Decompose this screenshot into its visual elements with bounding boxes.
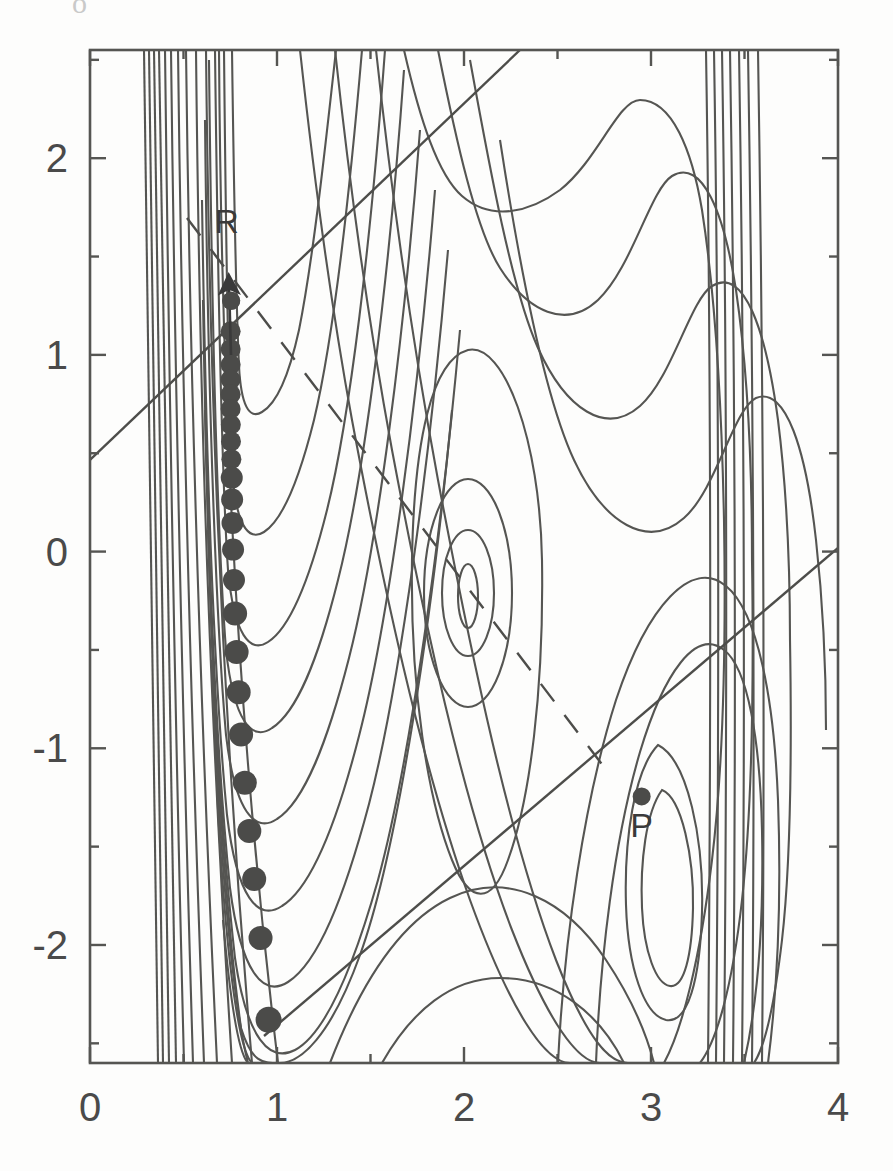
y-tick-label: -2: [32, 923, 68, 967]
contour-rwall-1: [706, 50, 710, 1063]
contour-wave-4: [500, 140, 826, 730]
y-tick-label: 1: [46, 333, 68, 377]
trajectory-dot: [221, 467, 243, 489]
trajectory-dot: [237, 819, 261, 843]
dashed-line: [187, 218, 604, 767]
figure-canvas: o: [0, 0, 893, 1171]
trajectory-dot: [223, 569, 245, 591]
trajectory-dot: [221, 449, 241, 469]
contour-plot: 01234-2-1012 RP: [0, 0, 893, 1171]
contour-center-mid: [442, 530, 494, 656]
contour-product-arc-1: [596, 644, 762, 1063]
contour-product-arc-2: [558, 578, 779, 1063]
contour-basin-envelope: [412, 350, 542, 894]
trajectory-dot: [221, 431, 241, 451]
trajectory-dot: [225, 640, 249, 664]
trajectory-dot: [221, 512, 243, 534]
trajectory-dot: [233, 771, 257, 795]
contour-product-outer: [626, 745, 702, 1020]
x-tick-label: 1: [266, 1085, 288, 1129]
contour-u-1: [232, 50, 336, 414]
annotation-label-r: R: [214, 202, 239, 240]
contour-rwall-4: [730, 50, 735, 1063]
trajectory-dot: [223, 602, 247, 626]
contour-center-outer: [424, 479, 512, 707]
y-tick-label: -1: [32, 726, 68, 770]
y-tick-label: 2: [46, 136, 68, 180]
trajectory-dot: [249, 926, 273, 950]
trajectory-dot: [242, 867, 266, 891]
contour-rwall-2: [714, 50, 718, 1063]
contour-lines-group: [144, 50, 826, 1063]
trajectory-dot: [227, 680, 251, 704]
trajectory-dot: [221, 488, 243, 510]
contour-low-1: [330, 887, 654, 1063]
x-tick-label: 4: [827, 1085, 849, 1129]
x-tick-label: 2: [453, 1085, 475, 1129]
annotation-marker-p: [633, 787, 651, 805]
contour-wall-7: [178, 50, 204, 1063]
annotation-label-p: P: [630, 806, 653, 844]
x-tick-label: 0: [79, 1085, 101, 1129]
trajectory-dot: [256, 1007, 282, 1033]
x-tick-label: 3: [640, 1085, 662, 1129]
contour-low-2: [382, 978, 624, 1063]
trajectory-dot: [222, 539, 244, 561]
contour-rwall-6: [748, 50, 754, 1063]
contour-wave-2: [438, 50, 752, 560]
y-tick-label: 0: [46, 530, 68, 574]
trajectory-dot: [229, 723, 253, 747]
annotation-marker-r: [222, 292, 240, 310]
contour-mid-6: [754, 640, 791, 1063]
